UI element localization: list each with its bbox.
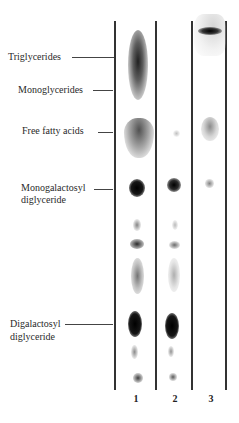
lane-number-2: 2 [169,393,181,404]
spot-lane3-solvent-front [194,14,226,56]
label-dgdg-line1: Digalactosyl [10,318,61,330]
leader-monoglycerides [93,90,113,91]
lane-line-3-right [225,21,227,390]
label-free-fatty-acids: Free fatty acids [22,125,84,137]
spot-lane3-triglycerides [198,27,222,35]
label-mgdg-line1: Monogalactosyl [21,182,85,194]
spot-lane3-free-fatty-acids [201,117,219,141]
spot-lane2-minor-a [172,220,178,230]
leader-free-fatty-acids [98,132,113,133]
leader-dgdg [65,324,113,325]
leader-mgdg [94,189,113,190]
label-monoglycerides: Monoglycerides [18,84,83,96]
spot-lane1-origin [133,373,143,383]
lane-line-2-right [191,21,193,390]
spot-lane1-free-fatty-acids [124,118,154,158]
spot-lane1-triglycerides [128,30,148,100]
spot-lane2-minor-c [168,346,174,357]
label-mgdg-line2: diglyceride [21,194,66,206]
spot-lane2-minor-b [169,241,180,249]
spot-lane1-mgdg [129,179,145,197]
lane-number-1: 1 [130,393,142,404]
spot-lane2-streak [168,258,180,292]
spot-lane2-dgdg [165,313,179,339]
lane-number-3: 3 [205,393,217,404]
spot-lane2-origin [169,373,177,381]
label-dgdg-line2: diglyceride [10,331,55,343]
lane-line-1-right [155,21,157,390]
spot-lane1-streak [131,258,144,294]
spot-lane1-dgdg [128,311,142,337]
spot-lane1-minor-b [130,239,144,249]
spot-lane2-free-fatty-acids [173,130,180,137]
lane-line-1-left [114,21,116,390]
spot-lane1-minor-a [133,219,141,231]
label-triglycerides: Triglycerides [8,51,61,63]
spot-lane1-minor-c [131,345,138,359]
spot-lane2-mgdg [167,178,181,192]
leader-triglycerides [72,57,114,58]
spot-lane3-mgdg [205,179,214,188]
